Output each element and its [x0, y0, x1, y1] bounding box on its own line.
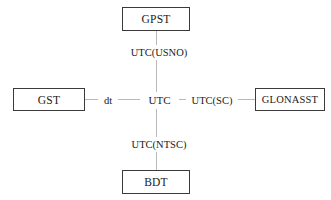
node-gst: GST: [13, 88, 85, 111]
node-glonasst: GLONASST: [255, 88, 325, 111]
node-utc: UTC: [140, 92, 179, 109]
edge-label-utc-usno: UTC(USNO): [115, 45, 203, 60]
edge-label-utc-ntsc: UTC(NTSC): [115, 137, 203, 152]
connector-gpst-to-utc: [156, 31, 157, 99]
node-gpst: GPST: [122, 7, 190, 31]
node-bdt: BDT: [122, 170, 190, 194]
edge-label-dt: dt: [98, 92, 118, 109]
edge-label-utc-sc: UTC(SC): [186, 92, 238, 109]
time-system-diagram: GPST GST GLONASST BDT UTC UTC(USNO) UTC(…: [0, 0, 331, 200]
